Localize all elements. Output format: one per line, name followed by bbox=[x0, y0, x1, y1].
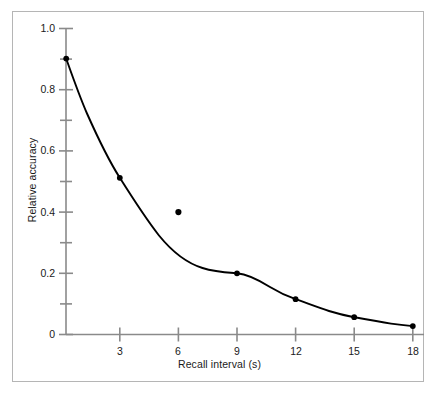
x-tick-label: 18 bbox=[398, 345, 428, 357]
x-tick-label: 6 bbox=[163, 345, 193, 357]
outlier-data-point bbox=[175, 209, 181, 215]
data-point bbox=[234, 270, 240, 276]
figure-canvas: 1.0 0.8 0.6 0.4 0.2 0 3 6 9 12 15 18 Rec… bbox=[0, 0, 439, 395]
x-tick-label: 9 bbox=[222, 345, 252, 357]
y-axis-title: Relative accuracy bbox=[26, 20, 38, 340]
x-tick-label: 3 bbox=[105, 345, 135, 357]
x-axis-title: Recall interval (s) bbox=[0, 358, 439, 370]
data-point bbox=[410, 323, 416, 329]
relative-accuracy-decay-curve bbox=[66, 59, 413, 327]
data-point-markers bbox=[63, 56, 415, 329]
x-tick-label: 12 bbox=[281, 345, 311, 357]
data-point bbox=[293, 296, 299, 302]
data-point bbox=[63, 56, 69, 62]
chart-plot-area bbox=[0, 0, 439, 395]
data-point bbox=[117, 175, 123, 181]
x-tick-label: 15 bbox=[339, 345, 369, 357]
data-point bbox=[351, 314, 357, 320]
